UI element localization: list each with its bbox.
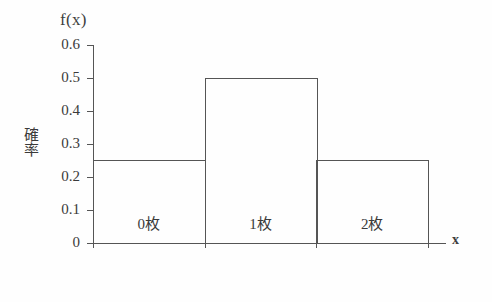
y-tick-label: 0.2 xyxy=(61,168,80,184)
y-tick-label: 0.1 xyxy=(61,201,80,217)
x-edge-tick xyxy=(93,239,94,248)
y-tick-label: 0.6 xyxy=(61,36,80,52)
y-axis-title-char-2: 率 xyxy=(20,143,42,158)
category-label-2枚: 2枚 xyxy=(316,212,428,233)
x-axis-label: x xyxy=(452,232,459,248)
y-tick-label: 0.3 xyxy=(61,135,80,151)
y-tick-0.4: 0.4 xyxy=(87,111,94,112)
y-tick-0.5: 0.5 xyxy=(87,78,94,79)
y-tick-0.6: 0.6 xyxy=(87,45,94,46)
y-tick-label: 0 xyxy=(73,234,81,250)
y-tick-label: 0.4 xyxy=(61,102,80,118)
x-axis-line xyxy=(93,243,446,244)
y-tick-0.3: 0.3 xyxy=(87,144,94,145)
value-axis-label: f(x) xyxy=(60,10,87,30)
x-edge-tick xyxy=(316,239,317,248)
probability-histogram-figure: f(x) 確 率 x 00.10.20.30.40.50.6 0枚1枚2枚 xyxy=(0,0,492,302)
x-edge-tick xyxy=(205,239,206,248)
x-edge-tick xyxy=(428,239,429,248)
y-tick-label: 0.5 xyxy=(61,69,80,85)
y-axis-title: 確 率 xyxy=(20,128,42,158)
y-axis-title-char-1: 確 xyxy=(20,128,42,143)
category-label-0枚: 0枚 xyxy=(93,212,205,233)
category-label-1枚: 1枚 xyxy=(205,212,317,233)
